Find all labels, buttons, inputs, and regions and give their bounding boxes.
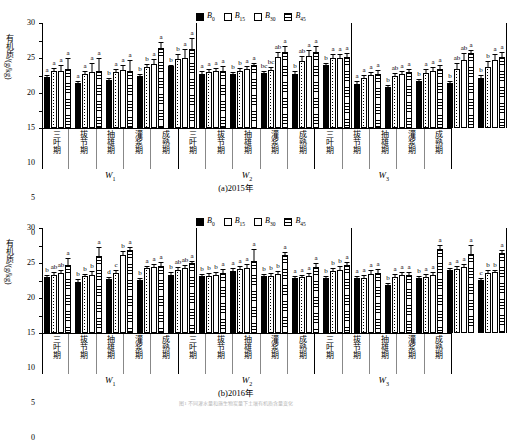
error-bar: [488, 270, 489, 274]
error-bar: [271, 273, 272, 277]
significance-letter: a: [114, 61, 117, 68]
error-bar: [161, 262, 162, 267]
significance-letter: a: [190, 253, 193, 260]
significance-letter: a: [128, 239, 131, 246]
error-bar: [130, 247, 131, 251]
x-axis-stage-label: 抽雄期: [379, 130, 388, 175]
stage-bars-抽雄期: bcbcaba: [259, 23, 290, 128]
error-bar: [378, 269, 379, 274]
water-group-W1: babababbbadcbabaaabababa: [42, 228, 197, 333]
bar-B15: a: [113, 72, 119, 128]
significance-letter: c: [114, 262, 117, 269]
bar-B15: a: [361, 78, 367, 128]
significance-letter: a: [469, 237, 472, 244]
error-bar: [54, 272, 55, 276]
bar-B45: a: [313, 267, 319, 334]
y-axis-tick-label: 10: [27, 159, 35, 167]
error-bar: [309, 273, 310, 277]
y-axis-tick-label: 20: [27, 294, 35, 302]
significance-letter: ab: [58, 262, 65, 269]
bar-B30: a: [430, 275, 436, 333]
legend-label: B15: [235, 217, 245, 228]
significance-letter: b: [238, 60, 242, 67]
bar-groups-a: aaaaaaaabaaabbaabbaaaaaabbaabcbcabababaa…: [42, 23, 452, 128]
significance-letter: a: [45, 67, 48, 74]
significance-letter: a: [307, 42, 310, 49]
significance-letter: a: [121, 57, 124, 64]
significance-letter: a: [376, 62, 379, 69]
bar-B15: a: [423, 277, 429, 333]
significance-letter: a: [59, 57, 62, 64]
error-bar: [147, 64, 148, 69]
water-group-label-W1: W1: [42, 375, 179, 387]
significance-letter: a: [369, 262, 372, 269]
water-group-label-W3: W3: [315, 170, 452, 182]
bar-B15: b: [82, 276, 88, 333]
error-bar: [192, 38, 193, 50]
bar-B0: b: [137, 280, 143, 333]
significance-letter: b: [214, 264, 218, 271]
legend-swatch-icon: [196, 218, 204, 226]
bar-B15: b: [485, 67, 491, 128]
bar-B45: a: [406, 275, 412, 333]
bar-B45: a: [468, 254, 474, 333]
bar-B45: a: [65, 265, 71, 333]
stage-bars-灌浆期: aaaa: [290, 228, 321, 333]
error-bar: [254, 249, 255, 261]
bar-B30: b: [89, 275, 95, 333]
error-bar: [171, 65, 172, 67]
significance-letter: a: [128, 52, 131, 59]
error-bar: [464, 264, 465, 268]
bar-B0: b: [478, 78, 484, 128]
x-axis-stage-label: 拔节期: [352, 130, 361, 175]
bar-B15: ab: [299, 61, 305, 128]
bar-B45: a: [158, 48, 164, 128]
bar-B0: b: [75, 282, 81, 333]
bar-B15: a: [82, 74, 88, 128]
significance-letter: bc: [261, 63, 268, 70]
significance-letter: a: [493, 46, 496, 53]
stage-bars-成熟期: bbaa: [476, 23, 507, 128]
stage-bars-抽雄期: baaa: [414, 23, 445, 128]
error-bar: [209, 69, 210, 73]
error-bar: [419, 79, 420, 82]
significance-letter: a: [190, 30, 193, 37]
legend-label: B30: [265, 12, 275, 23]
error-bar: [440, 65, 441, 70]
significance-letter: b: [386, 77, 390, 84]
significance-letter: ab: [275, 44, 282, 51]
error-bar: [357, 276, 358, 279]
legend-item-B15: B15: [224, 217, 245, 228]
bar-B15: a: [237, 269, 243, 333]
significance-letter: b: [386, 275, 390, 282]
error-bar: [240, 266, 241, 270]
significance-letter: a: [252, 241, 255, 248]
x-label-cell: 拔节期: [206, 334, 233, 380]
bar-B0: b: [230, 74, 236, 128]
error-bar: [340, 54, 341, 58]
error-bar: [502, 52, 503, 58]
y-axis-tick-label: 0: [31, 434, 35, 442]
significance-letter: b: [107, 70, 111, 77]
bar-B0: b: [323, 278, 329, 333]
x-label-cell: 成熟期: [288, 129, 315, 175]
x-axis-stage-label: 成熟期: [297, 130, 306, 175]
significance-letter: ab: [454, 55, 461, 62]
bar-B15: a: [299, 277, 305, 333]
error-bar: [92, 63, 93, 72]
significance-letter: a: [145, 258, 148, 265]
significance-letter: a: [214, 60, 217, 67]
significance-letter: a: [314, 255, 317, 262]
error-bar: [316, 46, 317, 53]
error-bar: [278, 52, 279, 58]
bar-B0: a: [447, 270, 453, 333]
significance-letter: a: [393, 266, 396, 273]
error-bar: [233, 72, 234, 75]
x-label-group-W1: 三叶期拔节期抽雄期灌浆期成熟期: [42, 129, 179, 175]
error-bar: [471, 245, 472, 255]
stage-bars-拔节期: aaaa: [228, 228, 259, 333]
bar-B30: a: [120, 70, 126, 128]
bar-B15: a: [423, 73, 429, 128]
x-label-cell: 三叶期: [315, 129, 342, 175]
x-label-cell: 抽雄期: [97, 129, 124, 175]
